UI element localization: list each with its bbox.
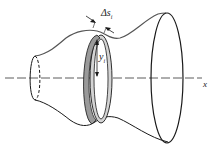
delta-s-label: Δsi bbox=[101, 8, 112, 20]
x-axis-label: x bbox=[203, 80, 207, 89]
delta-s-extension-right bbox=[104, 28, 106, 33]
y-radius-label: yi bbox=[99, 52, 105, 64]
diagram-canvas bbox=[0, 0, 212, 150]
y-subscript: i bbox=[103, 58, 105, 64]
x-text: x bbox=[203, 79, 207, 89]
delta-s-text: Δs bbox=[101, 7, 111, 18]
surface-of-revolution-figure: Δsi yi x bbox=[0, 0, 212, 150]
delta-s-extension-left bbox=[93, 22, 95, 28]
delta-s-subscript: i bbox=[111, 14, 113, 20]
